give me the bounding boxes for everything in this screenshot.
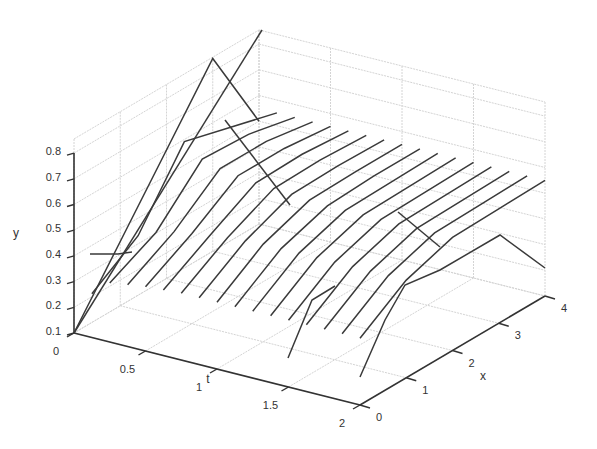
- y-tick-label: 0.7: [46, 171, 61, 183]
- t-tick: [139, 351, 146, 355]
- y-tick: [67, 282, 74, 284]
- x-tick: [453, 351, 463, 354]
- series-curve: [181, 135, 366, 293]
- t-tick: [210, 369, 217, 373]
- t-axis-label: t: [206, 372, 210, 386]
- series-curve: [199, 140, 384, 298]
- x-axis-label: x: [480, 369, 486, 383]
- y-tick: [67, 256, 74, 258]
- y-tick-label: 0.5: [46, 222, 61, 234]
- y-axis-label: y: [13, 226, 19, 240]
- x-tick-label: 4: [561, 302, 567, 314]
- series-curve: [110, 117, 295, 283]
- x-tick: [499, 323, 509, 326]
- x-tick-label: 1: [422, 384, 428, 396]
- series-curve: [163, 131, 348, 290]
- y-tick-label: 0.2: [46, 299, 61, 311]
- y-tick: [67, 179, 74, 181]
- t-tick-label: 1.5: [263, 399, 278, 411]
- y-tick-label: 0.3: [46, 274, 61, 286]
- y-tick: [67, 205, 74, 207]
- y-tick-label: 0.6: [46, 197, 61, 209]
- y-tick-label: 0.1: [46, 325, 61, 337]
- x-tick: [545, 296, 555, 299]
- floor-grid-line: [289, 278, 474, 387]
- x-tick: [406, 378, 416, 381]
- x-tick-label: 3: [515, 329, 521, 341]
- floor-grid-line: [213, 251, 499, 323]
- t-tick-label: 0.5: [120, 363, 135, 375]
- x-tick: [360, 405, 370, 408]
- series-curve: [128, 122, 313, 285]
- floor-grid-line: [167, 279, 453, 351]
- y-tick-label: 0.8: [46, 145, 61, 157]
- t-tick: [282, 387, 289, 391]
- t-tick-label: 0: [53, 345, 59, 357]
- y-tick: [67, 230, 74, 232]
- y-tick-label: 0.4: [46, 248, 61, 260]
- t-tick-label: 1: [196, 381, 202, 393]
- y-tick: [67, 307, 74, 309]
- t-tick-label: 2: [339, 417, 345, 429]
- y-tick: [67, 153, 74, 155]
- strand: [90, 252, 132, 254]
- x-tick-label: 2: [468, 357, 474, 369]
- t-tick: [353, 405, 360, 409]
- floor-grid-line: [120, 306, 406, 378]
- strand: [225, 120, 290, 205]
- grid-lines: [74, 30, 545, 405]
- surface-plot-3d: 0.10.20.30.40.50.60.70.800.511.5201234yt…: [0, 0, 597, 449]
- x-tick-label: 0: [376, 411, 382, 423]
